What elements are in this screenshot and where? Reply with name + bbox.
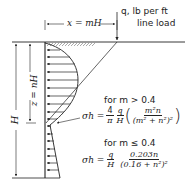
case1-equation: σh = 4π qH ( m²n(m² + n²)² ) (82, 106, 181, 125)
pressure-arrows (47, 50, 78, 170)
soil-hatch (47, 43, 95, 46)
load-label-line2: line load (137, 19, 175, 28)
case1-condition: for m > 0.4 (104, 96, 156, 105)
case2-condition: for m ≤ 0.4 (104, 139, 156, 148)
z-dimension-label: z = nH (30, 75, 39, 107)
h-dimension-label: H (10, 116, 20, 125)
load-label-line1: q, lb per ft (121, 7, 168, 16)
pressure-curve (45, 43, 78, 178)
x-dimension-label: x = mH (67, 19, 102, 28)
sigma-pointer (57, 118, 80, 123)
case2-equation: σh = qH 0.203n(0.16 + n²)² (82, 150, 169, 169)
